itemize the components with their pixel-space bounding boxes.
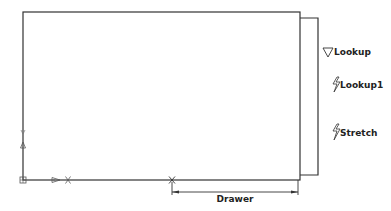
cad-canvas[interactable]: Drawer Lookup Lookup1 Stretch (0, 0, 391, 211)
stretch-lightning-icon (333, 124, 340, 140)
lookup-label: Lookup (334, 47, 371, 57)
ucs-origin-icon (20, 177, 26, 183)
lookup-parameter[interactable]: Lookup (323, 47, 371, 57)
lookup1-label: Lookup1 (340, 80, 383, 90)
lookup1-lightning-icon (333, 77, 340, 92)
lookup-triangle-icon (323, 48, 333, 57)
dimension-label: Drawer (217, 194, 254, 204)
stretch-label: Stretch (340, 128, 377, 138)
lookup1-action[interactable]: Lookup1 (333, 77, 383, 92)
drawer-panel[interactable] (300, 18, 318, 175)
main-rectangle[interactable] (23, 12, 300, 180)
drawer-dimension[interactable]: Drawer (172, 180, 298, 204)
stretch-action[interactable]: Stretch (333, 124, 377, 140)
